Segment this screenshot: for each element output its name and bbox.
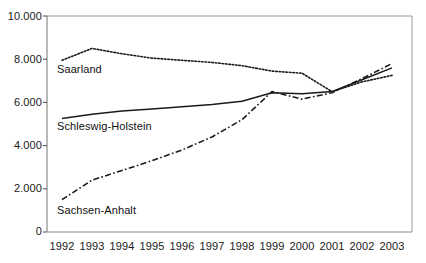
y-tick-label-2000: 2.000 xyxy=(0,182,42,194)
y-tick-label-6000: 6.000 xyxy=(0,96,42,108)
series-line-schleswig-holstein xyxy=(62,68,392,119)
series-label-schleswig-holstein: Schleswig-Holstein xyxy=(57,120,152,132)
y-tick-label-4000: 4.000 xyxy=(0,139,42,151)
line-chart: 10.000 8.000 6.000 4.000 2.000 0 1992 19… xyxy=(0,0,426,263)
series-line-saarland xyxy=(62,48,392,91)
y-tick-label-0: 0 xyxy=(0,225,42,237)
x-tick-label-2003: 2003 xyxy=(364,240,420,252)
series-label-sachsen-anhalt: Sachsen-Anhalt xyxy=(57,204,136,216)
series-label-saarland: Saarland xyxy=(57,63,102,75)
y-tick-label-8000: 8.000 xyxy=(0,53,42,65)
y-tick-label-10000: 10.000 xyxy=(0,10,42,22)
